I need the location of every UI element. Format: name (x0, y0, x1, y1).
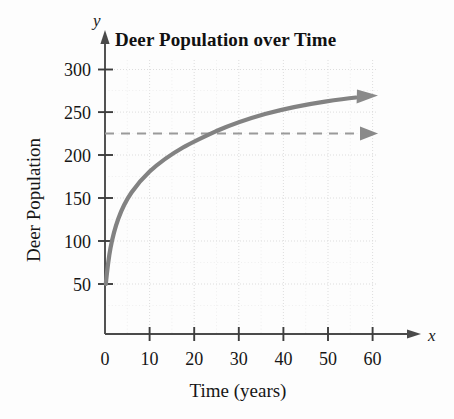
x-tick-label-40: 40 (274, 349, 292, 369)
y-tick-label-300: 300 (64, 60, 91, 80)
text-layer: Deer Population over Time y x 300 250 20… (23, 11, 436, 402)
chart-title: Deer Population over Time (115, 29, 336, 50)
y-tick-label-50: 50 (73, 275, 91, 295)
deer-population-chart: Deer Population over Time y x 300 250 20… (0, 0, 454, 419)
x-tick-label-20: 20 (185, 349, 203, 369)
x-tick-label-60: 60 (364, 349, 382, 369)
population-curve-arrow-icon (357, 90, 378, 104)
x-tick-label-50: 50 (319, 349, 337, 369)
x-tick-label-10: 10 (141, 349, 159, 369)
asymptote-arrow-icon (360, 127, 378, 141)
y-tick-label-200: 200 (64, 146, 91, 166)
y-tick-label-150: 150 (64, 189, 91, 209)
population-curve (106, 98, 356, 285)
x-axis-title: Time (years) (190, 380, 287, 402)
x-tick-label-0: 0 (101, 349, 110, 369)
y-tick-label-100: 100 (64, 232, 91, 252)
x-tick-label-30: 30 (230, 349, 248, 369)
y-axis-title: Deer Population (23, 138, 44, 263)
chart-canvas: Deer Population over Time y x 300 250 20… (0, 0, 454, 419)
data-layer (105, 90, 378, 284)
y-axis-arrow-icon (100, 30, 109, 44)
x-axis-letter: x (427, 326, 436, 345)
y-axis-letter: y (91, 11, 101, 30)
y-tick-label-250: 250 (64, 103, 91, 123)
x-axis-arrow-icon (407, 329, 421, 338)
